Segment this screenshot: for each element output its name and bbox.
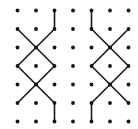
grid-dot [108,101,112,105]
grid-dot [71,101,75,105]
grid-dot [53,9,57,13]
path-segment [18,29,37,48]
path-segment [110,66,129,85]
grid-dot [16,120,20,124]
grid-dot [34,46,38,50]
grid-dot [127,120,131,124]
grid-dot [127,101,131,105]
grid-dot [34,101,38,105]
grid-dot [90,27,94,31]
grid-dot [71,83,75,87]
path-segment [92,85,111,104]
grid-dot [34,64,38,68]
path-segment [92,29,111,48]
grid-dot [108,27,112,31]
grid-dot [34,83,38,87]
grid-dot [127,64,131,68]
grid-dot [16,64,20,68]
grid-dot [127,27,131,31]
grid-dot [71,46,75,50]
grid-dot [71,64,75,68]
grid-dot [34,27,38,31]
grid-dot [90,46,94,50]
grid-dots [16,9,131,124]
grid-dot [108,64,112,68]
grid-dot [90,83,94,87]
grid-dot [53,83,57,87]
grid-dot [90,64,94,68]
path-segment [18,85,37,104]
grid-dot [16,27,20,31]
grid-dot [108,83,112,87]
grid-dot [71,27,75,31]
grid-dot [108,9,112,13]
grid-dot [53,120,57,124]
grid-dot [53,27,57,31]
path-segment [18,48,37,67]
grid-dot [127,46,131,50]
grid-dot [90,120,94,124]
grid-dot [16,9,20,13]
path-segment [36,29,55,48]
grid-dot [71,120,75,124]
grid-dot [16,83,20,87]
path-segment [92,48,111,67]
path-segment [36,48,55,67]
dot-grid-diagram [0,0,138,129]
path-segment [92,66,111,85]
grid-dot [127,9,131,13]
path-segment [36,66,55,85]
grid-dot [71,9,75,13]
path-segment [110,29,129,48]
grid-dot [34,120,38,124]
grid-dot [127,83,131,87]
grid-dot [16,46,20,50]
grid-dot [53,64,57,68]
grid-dot [90,101,94,105]
grid-dot [90,9,94,13]
grid-dot [53,101,57,105]
grid-dot [34,9,38,13]
path-segment [36,85,55,104]
grid-dot [108,120,112,124]
path-segment [110,48,129,67]
path-segment [110,85,129,104]
grid-dot [16,101,20,105]
grid-dot [53,46,57,50]
grid-dot [108,46,112,50]
path-segment [18,66,37,85]
